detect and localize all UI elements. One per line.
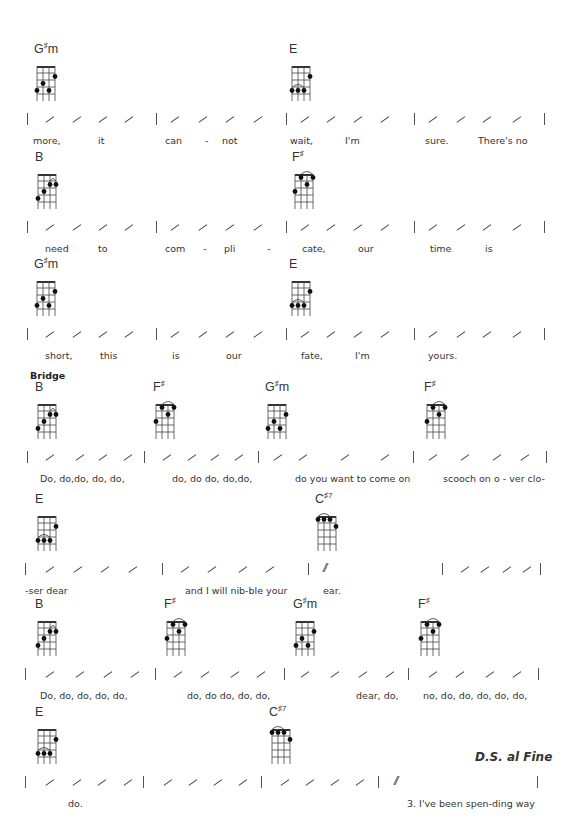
beat-slash-icon	[188, 454, 197, 461]
beat-slash-icon	[381, 454, 390, 461]
beat-slash-icon	[76, 454, 85, 461]
beat-slash-icon	[99, 224, 108, 231]
chord-root: F	[424, 380, 432, 394]
beat-slash-icon	[164, 779, 173, 786]
beat-slash-icon	[341, 454, 350, 461]
beat-slash-icon	[104, 671, 113, 678]
barline	[413, 451, 414, 463]
beat-slash-icon	[101, 566, 110, 573]
system-4: BF♯G♯mF♯Do, do,do, do, do,do, do do, do,…	[0, 380, 580, 480]
beat-slash-icon	[513, 671, 522, 678]
beat-slash-icon	[513, 224, 522, 231]
barline	[27, 221, 28, 233]
system-1: G♯mEmore,itcan-notwait,I'msure.There's n…	[0, 42, 580, 142]
beat-slash-icon	[208, 566, 217, 573]
lyric-syllable: more,	[33, 135, 61, 146]
beat-slash-icon	[513, 116, 522, 123]
beat-slash-icon	[457, 116, 466, 123]
chord-root: G	[34, 257, 44, 271]
lyric-syllable: -	[205, 135, 208, 146]
beat-slash-icon	[214, 779, 223, 786]
fretboard-diagram	[164, 615, 192, 665]
fretboard-diagram	[35, 168, 63, 218]
lyric-syllable: ear.	[323, 585, 341, 596]
chord-name: C♯7	[315, 492, 332, 506]
lyric-syllable: scooch on o - ver clo-	[443, 473, 545, 484]
barline	[258, 451, 259, 463]
ds-al-fine-marking: D.S. al Fine	[475, 750, 552, 764]
fretboard-diagram	[289, 275, 317, 325]
fretboard-diagram	[265, 398, 293, 448]
beat-slash-icon	[46, 566, 55, 573]
barline	[544, 113, 545, 125]
chord-name: E	[289, 42, 297, 56]
barline	[143, 776, 144, 788]
lyric-syllable: -	[203, 243, 206, 254]
chord-root: E	[35, 705, 43, 719]
chord-root: E	[35, 492, 43, 506]
beat-slash-icon	[456, 671, 465, 678]
beat-slash-icon	[483, 116, 492, 123]
barline	[286, 328, 287, 340]
chord-root: F	[418, 597, 426, 611]
beat-slash-icon	[171, 116, 180, 123]
barline	[25, 563, 26, 575]
beat-slash-icon	[381, 116, 390, 123]
beat-slash-icon	[171, 331, 180, 338]
beat-slash-icon	[226, 224, 235, 231]
beat-slash-icon	[46, 671, 55, 678]
chord-root: E	[289, 42, 297, 56]
lyric-syllable: it	[98, 135, 104, 146]
lyric-syllable: no, do, do, do, do, do,	[423, 690, 527, 701]
chord-root: B	[35, 380, 43, 394]
sharp-icon: ♯	[432, 379, 436, 388]
lyric-syllable: need	[45, 243, 69, 254]
chord-root: G	[293, 597, 303, 611]
barline	[442, 563, 443, 575]
beat-slash-icon	[483, 224, 492, 231]
lyric-syllable: There's no	[478, 135, 528, 146]
lyric-syllable: Do, do, do, do, do,	[40, 690, 128, 701]
beat-slash-icon	[174, 671, 183, 678]
beat-slash-icon	[274, 454, 283, 461]
lyric-syllable: fate,	[301, 350, 323, 361]
barline	[27, 451, 28, 463]
beat-slash-icon	[429, 454, 438, 461]
lyric-syllable: wait,	[290, 135, 313, 146]
fretboard-diagram	[35, 510, 63, 560]
lyric-syllable: to	[98, 243, 108, 254]
beat-slash-icon	[457, 331, 466, 338]
barline	[25, 668, 26, 680]
beat-slash-icon	[226, 116, 235, 123]
fretboard-diagram	[424, 398, 452, 448]
fretboard-diagram	[269, 723, 297, 773]
lyric-syllable: I'm	[355, 350, 370, 361]
beat-slash-icon	[429, 116, 438, 123]
sharp-icon: ♯	[426, 596, 430, 605]
chord-name: F♯	[153, 380, 165, 394]
system-5: EC♯7//-ser dearand I will nib-ble yourea…	[0, 492, 580, 592]
beat-slash-icon	[301, 331, 310, 338]
beat-slash-icon	[199, 331, 208, 338]
chord-name: F♯	[424, 380, 436, 394]
chord-root: B	[35, 597, 43, 611]
barline	[284, 668, 285, 680]
barline	[261, 776, 262, 788]
barline	[156, 328, 157, 340]
barline	[537, 776, 538, 788]
beat-slash-icon	[429, 671, 438, 678]
chord-name: B	[35, 150, 43, 164]
chord-name: B	[35, 597, 43, 611]
fretboard-diagram	[289, 60, 317, 110]
chord-name: F♯	[292, 150, 304, 164]
lyric-syllable: do, do do, do,do,	[172, 473, 252, 484]
sharp-icon: ♯	[300, 149, 304, 158]
beat-slash-icon	[381, 331, 390, 338]
chord-quality: m	[279, 380, 289, 394]
sharp-icon: ♯	[161, 379, 165, 388]
lyric-syllable: -ser dear	[25, 585, 68, 596]
beat-slash-icon	[521, 454, 530, 461]
beat-slash-icon	[354, 331, 363, 338]
sharp-icon: ♯	[44, 256, 48, 265]
beat-slash-icon	[189, 779, 198, 786]
